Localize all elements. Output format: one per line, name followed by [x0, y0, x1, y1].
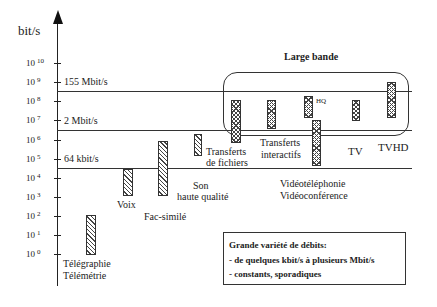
tick-mark [54, 216, 61, 217]
y-axis-label: bit/s [18, 24, 40, 38]
label-hq: HQ [316, 96, 326, 107]
label-tv: TV [348, 146, 363, 157]
label-tvhd: TVHD [378, 142, 409, 153]
tick-label: 101 [26, 230, 41, 240]
bar-videophonie [312, 120, 321, 166]
bar-telegraphie [86, 215, 96, 255]
bar-transferts-fichiers [231, 100, 241, 143]
label-fac-simile: Fac-similé [144, 211, 186, 222]
label-telegraphie: Télégraphie [63, 258, 111, 269]
tick-mark [54, 63, 61, 64]
bar-son-hq [194, 134, 202, 156]
label-telemetrie: Télémétrie [63, 270, 106, 281]
label-videophonie: Vidéotéléphonie [280, 178, 346, 189]
label-de-fichiers: de fichiers [206, 157, 248, 168]
tick-mark [54, 178, 61, 179]
tick-label: 106 [26, 135, 41, 145]
tick-label: 107 [26, 115, 41, 125]
note-line-1: - de quelques kbit/s à plusieurs Mbit/s [229, 253, 400, 268]
y-axis-arrow-icon [53, 10, 63, 24]
bar-transferts-interactifs [267, 100, 276, 129]
note-title: Grande variété de débits: [229, 238, 400, 253]
label-transferts-fichiers: Transferts [206, 146, 246, 157]
tick-label: 105 [26, 154, 41, 164]
tick-label: 109 [26, 77, 41, 87]
tick-mark [54, 101, 61, 102]
bar-tv [352, 100, 360, 121]
tick-mark [54, 254, 61, 255]
tick-label: 1010 [26, 58, 44, 68]
bar-fac-simile [158, 141, 168, 196]
tick-mark [54, 235, 61, 236]
label-videoconference: Vidéoconférence [280, 190, 348, 201]
tick-mark [54, 82, 61, 83]
note-box: Grande variété de débits: - de quelques … [223, 232, 406, 285]
tick-label: 108 [26, 96, 41, 106]
ref-label-64kbit: 64 kbit/s [64, 153, 99, 164]
note-line-2: - constants, sporadiques [229, 268, 400, 280]
y-axis-line [57, 18, 58, 286]
tick-mark [54, 140, 61, 141]
ref-label-2mbit: 2 Mbit/s [64, 115, 98, 126]
bar-tvhd [387, 82, 396, 118]
label-son: Son [193, 180, 209, 191]
ref-label-155mbit: 155 Mbit/s [64, 76, 108, 87]
tick-mark [54, 159, 61, 160]
bar-voix [123, 169, 133, 196]
label-interactifs: interactifs [261, 149, 301, 160]
group-label-large-bande: Large bande [284, 51, 338, 62]
tick-mark [54, 197, 61, 198]
tick-label: 102 [26, 211, 41, 221]
bar-hq [304, 96, 313, 118]
label-son-hq: haute qualité [177, 191, 228, 202]
tick-label: 104 [26, 173, 41, 183]
label-voix: Voix [117, 199, 136, 210]
ref-line-64kbit [57, 168, 412, 169]
label-transferts-interactifs: Transferts [260, 137, 300, 148]
tick-label: 100 [26, 249, 41, 259]
tick-label: 103 [26, 192, 41, 202]
tick-mark [54, 120, 61, 121]
